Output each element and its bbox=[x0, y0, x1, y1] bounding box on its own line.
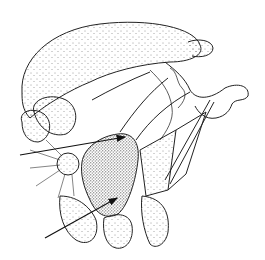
right-processes bbox=[150, 62, 248, 140]
left-lobes bbox=[21, 97, 79, 198]
illustration-canvas bbox=[0, 0, 265, 260]
genitalia-illustration bbox=[0, 0, 265, 260]
central-dense-structure bbox=[81, 134, 138, 217]
